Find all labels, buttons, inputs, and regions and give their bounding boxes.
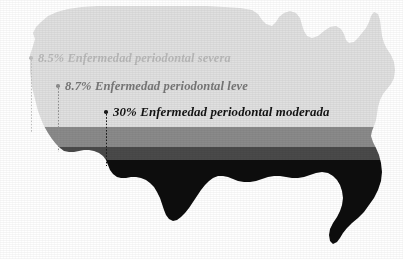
callout-layer: 8.5% Enfermedad periodontal severa 8.7% … — [0, 0, 403, 259]
callout-moderada: 30% Enfermedad periodontal moderada — [113, 105, 330, 120]
leader-stem-leve — [58, 88, 59, 152]
leader-stem-moderada — [106, 114, 107, 166]
leader-stem-severa — [31, 60, 32, 132]
infographic-canvas: 8.5% Enfermedad periodontal severa 8.7% … — [0, 0, 403, 259]
callout-severa: 8.5% Enfermedad periodontal severa — [38, 51, 231, 66]
callout-leve: 8.7% Enfermedad periodontal leve — [65, 79, 248, 94]
